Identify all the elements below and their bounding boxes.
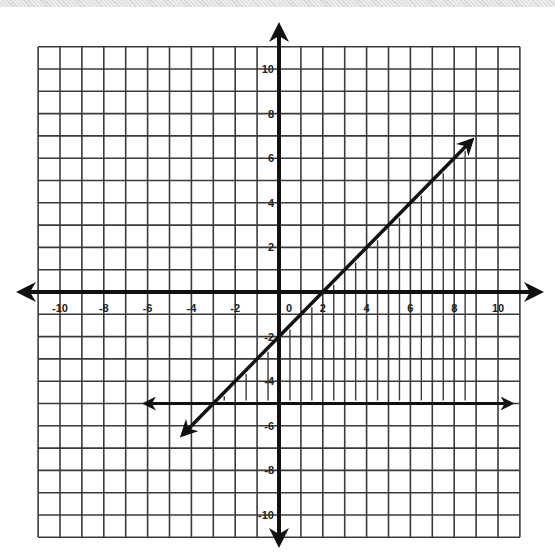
x-tick-label: -6: [143, 302, 153, 314]
y-tick-label: -2: [264, 331, 274, 343]
y-tick-label: -10: [258, 509, 274, 521]
coordinate-plane: -10-8-6-4-20246810108642-2-4-6-8-10: [0, 0, 555, 559]
x-tick-label: -2: [230, 302, 240, 314]
x-tick-label: 10: [492, 302, 504, 314]
x-tick-label: 8: [451, 302, 457, 314]
y-tick-label: 4: [268, 197, 275, 209]
y-tick-label: 6: [268, 152, 274, 164]
y-tick-label: -4: [264, 375, 275, 387]
axes: [24, 30, 536, 540]
y-tick-label: 10: [262, 63, 274, 75]
y-tick-label: 8: [268, 108, 274, 120]
y-tick-label: 2: [268, 241, 274, 253]
y-tick-label: -8: [264, 464, 274, 476]
x-tick-label: -8: [99, 302, 109, 314]
x-tick-label: -4: [187, 302, 198, 314]
x-tick-label: 0: [286, 302, 292, 314]
x-tick-label: 6: [407, 302, 413, 314]
x-tick-label: -10: [52, 302, 68, 314]
x-tick-label: 2: [320, 302, 326, 314]
graphed-line-y-equals-x-minus-2: [185, 143, 470, 433]
y-tick-label: -6: [264, 420, 274, 432]
x-tick-label: 4: [364, 302, 371, 314]
